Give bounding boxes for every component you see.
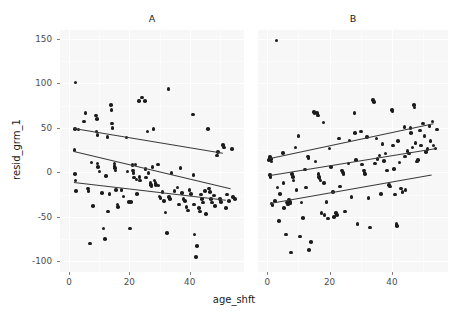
scatter-point xyxy=(418,129,422,133)
scatter-point xyxy=(230,147,234,151)
scatter-point xyxy=(276,186,280,190)
scatter-point xyxy=(392,167,396,171)
scatter-point xyxy=(138,179,142,183)
x-tick-label: 0 xyxy=(265,277,271,287)
grid-line-minor-horizontal xyxy=(60,61,244,62)
scatter-point xyxy=(271,203,275,207)
grid-line-major-horizontal xyxy=(258,83,448,84)
grid-line-major-horizontal xyxy=(60,172,244,173)
scatter-point xyxy=(132,171,136,175)
scatter-point xyxy=(391,144,395,148)
scatter-point xyxy=(270,160,274,164)
facet-label-a: A xyxy=(149,13,156,24)
grid-line-minor-vertical xyxy=(220,30,221,272)
grid-line-minor-vertical xyxy=(160,30,161,272)
grid-line-minor-horizontal xyxy=(258,239,448,240)
scatter-point xyxy=(95,117,99,121)
scatter-point xyxy=(84,111,88,115)
scatter-point xyxy=(114,188,118,192)
scatter-point xyxy=(111,126,115,130)
y-tick-label: 0 xyxy=(22,167,52,177)
scatter-point xyxy=(335,213,339,217)
scatter-point xyxy=(289,251,293,255)
scatter-point xyxy=(110,122,114,126)
y-tick-label: 100 xyxy=(22,78,52,88)
x-tick-label: 20 xyxy=(124,277,135,287)
scatter-point xyxy=(144,176,148,180)
scatter-point xyxy=(375,137,379,141)
scatter-point xyxy=(192,173,196,177)
scatter-point xyxy=(91,204,95,208)
x-tick-mark xyxy=(267,272,268,275)
scatter-point xyxy=(165,231,169,235)
scatter-point xyxy=(193,233,197,237)
chart-root: A B 150100500-50-100 02040 02040 resid_g… xyxy=(0,0,468,316)
scatter-point xyxy=(309,240,313,244)
scatter-point xyxy=(90,161,94,165)
grid-line-minor-vertical xyxy=(99,30,100,272)
scatter-point xyxy=(367,196,371,200)
scatter-point xyxy=(353,111,357,115)
x-axis-title: age_shft xyxy=(0,294,468,305)
x-tick-mark xyxy=(69,272,70,275)
scatter-point xyxy=(215,154,219,158)
x-tick-mark xyxy=(392,272,393,275)
grid-line-minor-vertical xyxy=(361,30,362,272)
scatter-point xyxy=(379,192,383,196)
scatter-point xyxy=(284,233,288,237)
x-tick-label: 0 xyxy=(66,277,72,287)
grid-line-major-horizontal xyxy=(60,39,244,40)
scatter-point xyxy=(164,211,168,215)
scatter-point xyxy=(382,159,386,163)
scatter-point xyxy=(198,210,202,214)
scatter-point xyxy=(104,174,108,178)
scatter-point xyxy=(398,161,402,165)
grid-line-major-horizontal xyxy=(60,217,244,218)
scatter-point xyxy=(96,133,100,137)
scatter-point xyxy=(120,188,124,192)
scatter-point xyxy=(177,203,181,207)
scatter-point xyxy=(143,99,147,103)
scatter-point xyxy=(179,166,183,170)
y-tick-mark xyxy=(57,217,60,218)
grid-line-minor-horizontal xyxy=(60,239,244,240)
grid-line-major-horizontal xyxy=(60,83,244,84)
scatter-point xyxy=(423,134,427,138)
scatter-point xyxy=(356,222,360,226)
scatter-point xyxy=(372,100,376,104)
scatter-point xyxy=(102,227,106,231)
scatter-point xyxy=(322,121,326,125)
scatter-point xyxy=(201,201,205,205)
x-tick-mark xyxy=(190,272,191,275)
scatter-point xyxy=(103,237,107,241)
scatter-point xyxy=(343,210,347,214)
scatter-point xyxy=(162,199,166,203)
grid-line-major-horizontal xyxy=(258,261,448,262)
scatter-point xyxy=(129,200,133,204)
x-tick-label: 40 xyxy=(386,277,397,287)
scatter-point xyxy=(416,158,420,162)
scatter-point xyxy=(300,201,304,205)
scatter-point xyxy=(224,206,228,210)
scatter-point xyxy=(176,186,180,190)
scatter-point xyxy=(100,191,104,195)
scatter-point xyxy=(151,165,155,169)
scatter-point xyxy=(381,142,385,146)
grid-line-minor-horizontal xyxy=(258,106,448,107)
scatter-point xyxy=(73,172,77,176)
scatter-point xyxy=(338,185,342,189)
scatter-point xyxy=(156,163,160,167)
scatter-point xyxy=(204,212,208,216)
scatter-point xyxy=(301,216,305,220)
scatter-point xyxy=(135,192,139,196)
scatter-point xyxy=(225,193,229,197)
scatter-point xyxy=(233,197,237,201)
scatter-point xyxy=(192,203,196,207)
scatter-point xyxy=(350,195,354,199)
facet-strip-a: A xyxy=(60,8,244,28)
scatter-point xyxy=(368,226,372,230)
y-tick-mark xyxy=(57,128,60,129)
scatter-point xyxy=(191,113,195,117)
scatter-point xyxy=(429,139,433,143)
scatter-point xyxy=(435,128,439,132)
